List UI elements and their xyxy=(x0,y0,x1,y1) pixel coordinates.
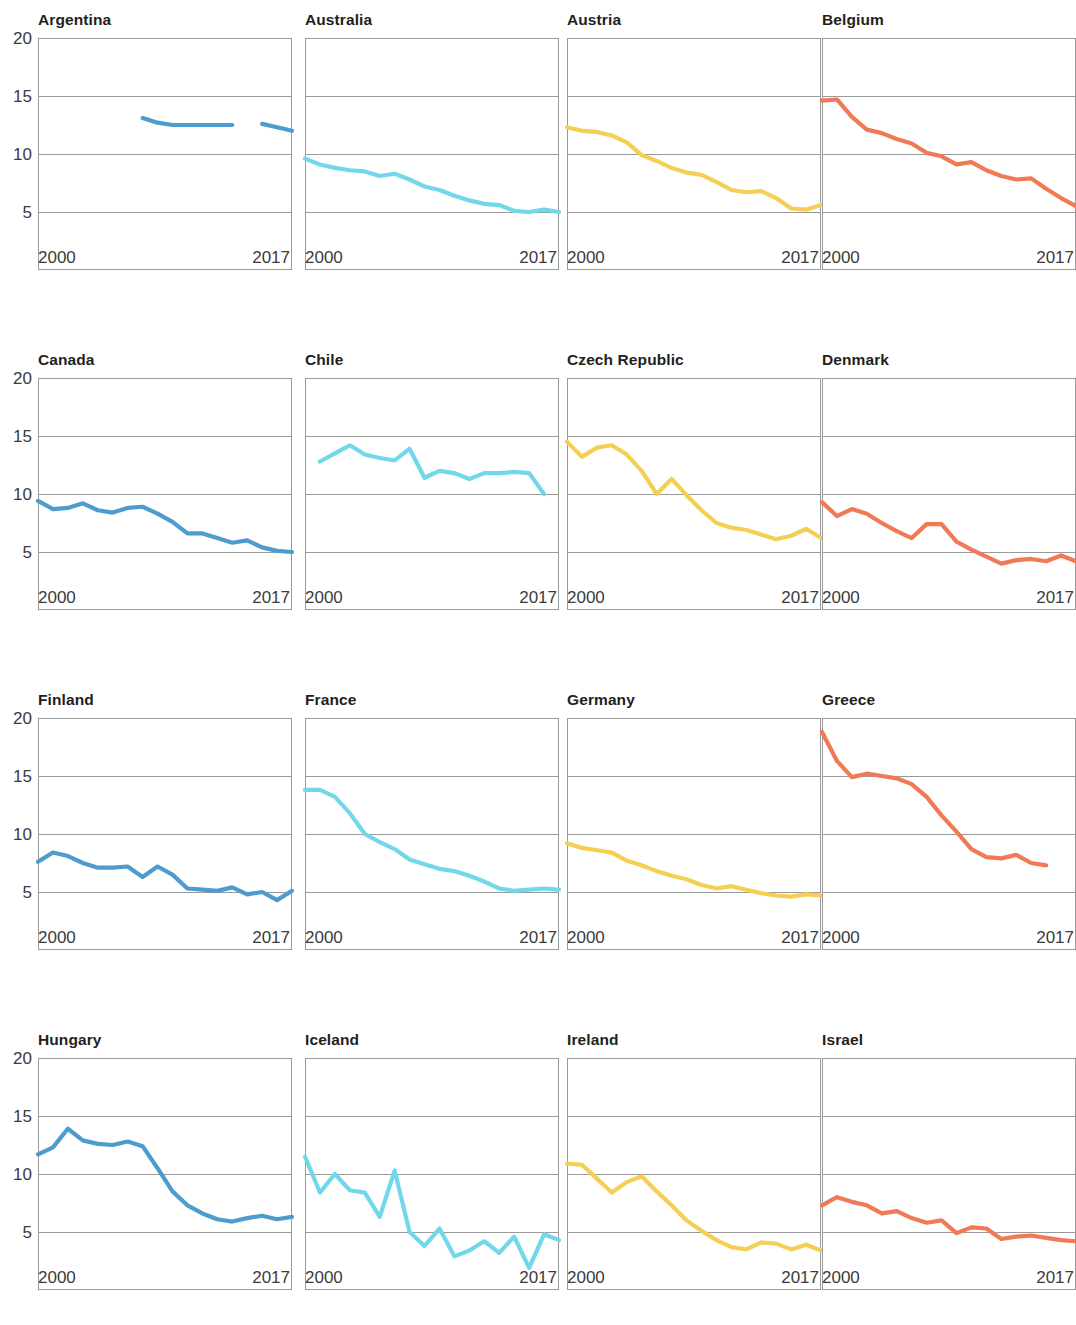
plot-area xyxy=(305,38,559,270)
x-tick-label-start: 2000 xyxy=(305,1269,343,1286)
x-tick-label-end: 2017 xyxy=(1036,249,1074,266)
chart-panel: Canada201510520002017 xyxy=(38,351,292,656)
x-axis-tick-labels: 20002017 xyxy=(38,929,292,953)
plot-area xyxy=(567,718,821,950)
plot-area xyxy=(822,38,1076,270)
y-tick-label: 20 xyxy=(13,1050,32,1067)
data-line xyxy=(38,501,292,552)
y-tick-label: 10 xyxy=(13,486,32,503)
plot-area xyxy=(305,718,559,950)
panel-title: Germany xyxy=(567,691,635,709)
x-tick-label-start: 2000 xyxy=(567,249,605,266)
chart-panel: Israel20002017 xyxy=(822,1031,1076,1325)
data-line xyxy=(567,1164,821,1251)
data-line xyxy=(567,127,821,209)
x-tick-label-end: 2017 xyxy=(781,1269,819,1286)
x-tick-label-end: 2017 xyxy=(1036,1269,1074,1286)
y-tick-label: 15 xyxy=(13,428,32,445)
chart-panel: Iceland20002017 xyxy=(305,1031,559,1325)
x-tick-label-end: 2017 xyxy=(252,929,290,946)
x-tick-label-start: 2000 xyxy=(38,929,76,946)
y-tick-label: 10 xyxy=(13,826,32,843)
x-tick-label-start: 2000 xyxy=(567,1269,605,1286)
y-tick-label: 15 xyxy=(13,88,32,105)
x-tick-label-start: 2000 xyxy=(38,249,76,266)
x-tick-label-start: 2000 xyxy=(822,929,860,946)
x-axis-tick-labels: 20002017 xyxy=(38,1269,292,1293)
chart-panel: Chile20002017 xyxy=(305,351,559,656)
data-line xyxy=(822,502,1076,563)
x-tick-label-end: 2017 xyxy=(252,589,290,606)
x-axis-tick-labels: 20002017 xyxy=(38,589,292,613)
panel-title: Chile xyxy=(305,351,343,369)
x-tick-label-start: 2000 xyxy=(38,1269,76,1286)
x-axis-tick-labels: 20002017 xyxy=(822,1269,1076,1293)
y-tick-label: 10 xyxy=(13,1166,32,1183)
plot-area xyxy=(822,1058,1076,1290)
x-axis-tick-labels: 20002017 xyxy=(567,1269,821,1293)
x-axis-tick-labels: 20002017 xyxy=(567,249,821,273)
y-tick-label: 20 xyxy=(13,370,32,387)
x-tick-label-end: 2017 xyxy=(519,929,557,946)
x-tick-label-end: 2017 xyxy=(1036,929,1074,946)
chart-panel: Germany20002017 xyxy=(567,691,821,996)
x-tick-label-end: 2017 xyxy=(781,589,819,606)
panel-title: Belgium xyxy=(822,11,884,29)
x-tick-label-end: 2017 xyxy=(252,1269,290,1286)
panel-title: Canada xyxy=(38,351,95,369)
panel-title: Australia xyxy=(305,11,372,29)
panel-title: Czech Republic xyxy=(567,351,684,369)
y-axis-tick-labels: 2015105 xyxy=(0,718,32,920)
plot-area xyxy=(567,1058,821,1290)
x-tick-label-end: 2017 xyxy=(781,249,819,266)
x-axis-tick-labels: 20002017 xyxy=(567,929,821,953)
data-line xyxy=(305,1157,559,1268)
panel-title: Greece xyxy=(822,691,875,709)
x-tick-label-start: 2000 xyxy=(305,249,343,266)
x-tick-label-end: 2017 xyxy=(1036,589,1074,606)
panel-title: France xyxy=(305,691,356,709)
y-axis-tick-labels: 2015105 xyxy=(0,378,32,580)
data-line xyxy=(38,1129,292,1222)
chart-panel: Austria20002017 xyxy=(567,11,821,316)
y-tick-label: 20 xyxy=(13,30,32,47)
data-line xyxy=(567,843,821,896)
plot-area xyxy=(38,378,292,610)
x-axis-tick-labels: 20002017 xyxy=(305,249,559,273)
x-tick-label-start: 2000 xyxy=(567,589,605,606)
y-tick-label: 10 xyxy=(13,146,32,163)
chart-panel: Greece20002017 xyxy=(822,691,1076,996)
plot-area xyxy=(38,1058,292,1290)
data-line xyxy=(822,99,1076,206)
panel-title: Israel xyxy=(822,1031,863,1049)
y-tick-label: 5 xyxy=(23,544,32,561)
plot-area xyxy=(305,378,559,610)
plot-area xyxy=(38,38,292,270)
panel-title: Argentina xyxy=(38,11,111,29)
chart-panel: Czech Republic20002017 xyxy=(567,351,821,656)
panel-title: Iceland xyxy=(305,1031,359,1049)
chart-panel: Finland201510520002017 xyxy=(38,691,292,996)
x-axis-tick-labels: 20002017 xyxy=(305,1269,559,1293)
chart-panel: Australia20002017 xyxy=(305,11,559,316)
chart-panel: Belgium20002017 xyxy=(822,11,1076,316)
x-tick-label-end: 2017 xyxy=(252,249,290,266)
data-line xyxy=(143,118,233,125)
x-tick-label-end: 2017 xyxy=(519,589,557,606)
chart-panel: Argentina201510520002017 xyxy=(38,11,292,316)
y-tick-label: 15 xyxy=(13,1108,32,1125)
data-line xyxy=(822,732,1046,865)
chart-panel: Hungary201510520002017 xyxy=(38,1031,292,1325)
x-tick-label-start: 2000 xyxy=(38,589,76,606)
data-line xyxy=(567,442,821,539)
x-tick-label-end: 2017 xyxy=(519,1269,557,1286)
x-axis-tick-labels: 20002017 xyxy=(567,589,821,613)
x-tick-label-start: 2000 xyxy=(567,929,605,946)
plot-area xyxy=(38,718,292,950)
y-axis-tick-labels: 2015105 xyxy=(0,1058,32,1260)
x-axis-tick-labels: 20002017 xyxy=(822,929,1076,953)
data-line xyxy=(822,1197,1076,1241)
chart-panel: France20002017 xyxy=(305,691,559,996)
panel-title: Finland xyxy=(38,691,94,709)
